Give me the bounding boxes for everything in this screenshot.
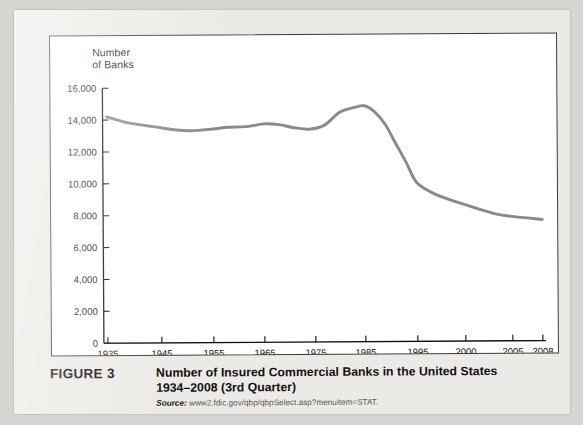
source-url: www2.fdic.gov/qbp/qbpSelect.asp?menuitem… [189,398,378,408]
plot-area: 16,00014,00012,00010,0008,0006,0004,0002… [50,33,558,355]
source-label: Source: [156,399,187,408]
y-tick-label: 12,000 [68,146,97,157]
x-tick-label: 1935 [97,348,118,355]
x-tick-label: 1945 [151,348,172,356]
figure-title-line2: 1934–2008 (3rd Quarter) [156,380,296,395]
figure-title: Number of Insured Commercial Banks in th… [156,364,556,395]
x-tick-label: 1975 [305,347,326,356]
x-axis-line [104,341,546,344]
line-chart-svg: 16,00014,00012,00010,0008,0006,0004,0002… [50,33,558,355]
x-tick-label: 1965 [254,347,275,355]
chart-panel: Numberof Banks 16,00014,00012,00010,0008… [49,32,559,356]
x-tick-label: 2008 [532,345,553,355]
figure-source: Source: www2.fdic.gov/qbp/qbpSelect.asp?… [156,398,378,408]
x-tick-label: 1985 [355,347,376,356]
y-tick-label: 6,000 [74,242,98,253]
y-tick-label: 2,000 [74,306,98,317]
y-axis-line [102,88,104,343]
y-tick-label: 14,000 [67,115,96,126]
x-tick-label: 1995 [407,346,428,355]
figure-title-line1: Number of Insured Commercial Banks in th… [156,364,497,380]
x-tick-label: 2000 [455,346,476,356]
x-tick-label: 1955 [203,347,224,355]
figure-label: FIGURE 3 [50,366,115,381]
y-tick-label: 0 [93,338,98,349]
scanned-page: Numberof Banks 16,00014,00012,00010,0008… [14,10,570,414]
y-tick-label: 10,000 [68,178,97,189]
data-line-insured-commercial-banks [106,104,542,222]
y-tick-label: 8,000 [73,210,97,221]
y-tick-label: 16,000 [67,83,96,94]
y-tick-label: 4,000 [74,274,98,285]
figure-caption: FIGURE 3 Number of Insured Commercial Ba… [50,364,570,367]
x-axis-ticks: 1935194519551965197519851995200020052008 [97,334,553,355]
x-tick-label: 2005 [502,346,523,356]
